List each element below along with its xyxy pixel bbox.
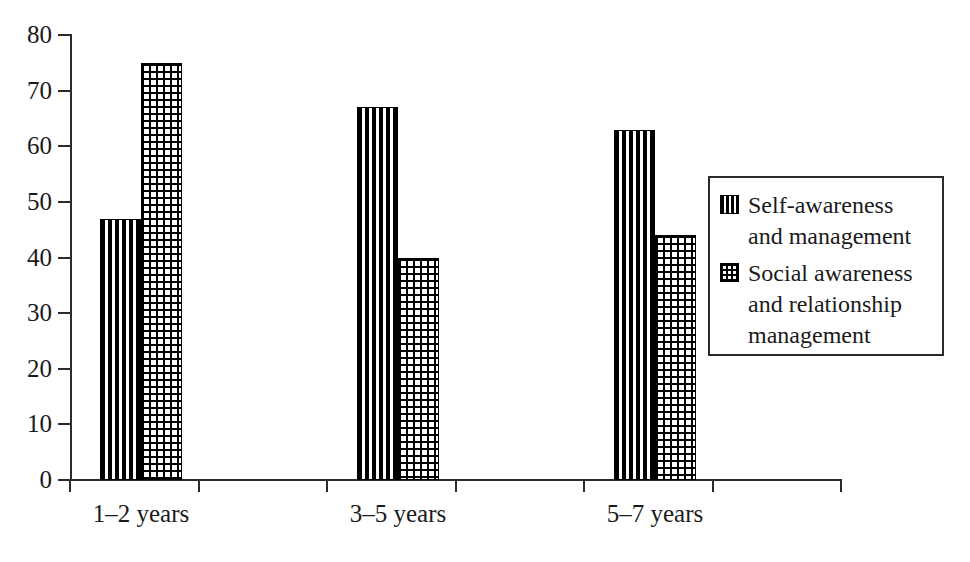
y-axis-tick-label: 10 xyxy=(0,411,52,436)
x-axis-category-label: 1–2 years xyxy=(61,500,221,528)
legend-item-label: Self-awareness and management xyxy=(748,190,932,252)
bar xyxy=(655,235,696,480)
x-axis-category-label: 5–7 years xyxy=(575,500,735,528)
y-axis-tick xyxy=(58,34,71,36)
x-axis-tick xyxy=(455,479,457,492)
x-axis-tick xyxy=(583,479,585,492)
y-axis-tick xyxy=(58,312,71,314)
y-axis-tick xyxy=(58,368,71,370)
x-axis-tick xyxy=(712,479,714,492)
y-axis-tick-label: 40 xyxy=(0,245,52,270)
x-axis-tick xyxy=(326,479,328,492)
crosshatch-grid-swatch-icon xyxy=(720,263,739,282)
legend-item-label: Social awareness and relationship manage… xyxy=(748,258,932,351)
y-axis-tick xyxy=(58,201,71,203)
y-axis-tick-label: 70 xyxy=(0,78,52,103)
y-axis-tick-label: 60 xyxy=(0,133,52,158)
y-axis-tick-label: 0 xyxy=(0,467,52,492)
vertical-stripes-swatch-icon xyxy=(720,195,739,214)
y-axis-tick-label: 80 xyxy=(0,22,52,47)
bar xyxy=(100,219,141,480)
legend-item-self-awareness: Self-awareness and management xyxy=(720,190,932,252)
chart-legend: Self-awareness and management Social awa… xyxy=(708,176,944,356)
y-axis-tick-label: 30 xyxy=(0,300,52,325)
bar xyxy=(141,63,182,480)
x-axis-tick xyxy=(840,479,842,492)
x-axis-category-label: 3–5 years xyxy=(318,500,478,528)
y-axis-tick-label: 20 xyxy=(0,356,52,381)
y-axis-tick xyxy=(58,90,71,92)
y-axis-tick-label: 50 xyxy=(0,189,52,214)
bar xyxy=(398,258,439,481)
x-axis-tick xyxy=(69,479,71,492)
bar-chart: 01020304050607080 1–2 years3–5 years5–7 … xyxy=(0,0,970,562)
x-axis-tick xyxy=(198,479,200,492)
y-axis-tick xyxy=(58,423,71,425)
y-axis-tick xyxy=(58,145,71,147)
bar xyxy=(614,130,655,480)
legend-item-social-awareness: Social awareness and relationship manage… xyxy=(720,258,932,351)
bar xyxy=(357,107,398,480)
y-axis-tick xyxy=(58,257,71,259)
